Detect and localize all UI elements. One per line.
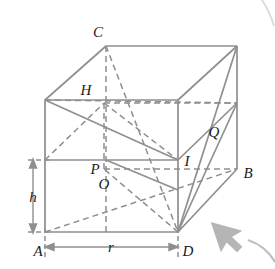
mouse-pointer-icon (209, 212, 275, 262)
label-H: H (80, 82, 93, 98)
geometry-figure: C H Q P O I B A D h r (0, 0, 275, 269)
label-D: D (182, 243, 194, 259)
label-radius-r: r (108, 239, 114, 255)
label-C: C (93, 24, 104, 40)
dimension-markers-group (30, 159, 179, 251)
label-O: O (99, 176, 110, 192)
label-Q: Q (209, 124, 220, 140)
prism-diagram: C H Q P O I B A D h r (0, 0, 275, 269)
label-A: A (32, 243, 43, 259)
edge-P-lower-diagonal (106, 160, 178, 190)
label-B: B (243, 165, 252, 181)
dim-r-arrow-right (169, 244, 178, 251)
edge-fronttopleft-to-I (45, 100, 178, 160)
label-P: P (89, 161, 99, 177)
label-I: I (184, 153, 191, 169)
label-height-h: h (29, 189, 37, 205)
cursor-arrow-shape (209, 212, 249, 258)
corner-arc-decoration (262, 0, 274, 26)
edge-front-face (45, 100, 178, 232)
hidden-edges-group (28, 46, 237, 258)
hidden-slant-C-D (106, 46, 178, 232)
edge-topleft-to-C (45, 46, 106, 100)
dim-r-arrow-left (45, 244, 54, 251)
edge-I-to-backmidright (178, 103, 237, 160)
cursor-tail-curve (248, 240, 275, 262)
hidden-diagonal-left-mid (45, 103, 104, 160)
